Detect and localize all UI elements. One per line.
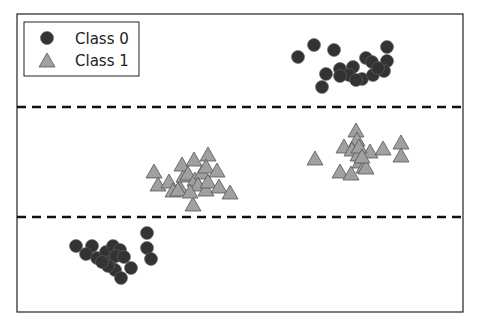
legend-label-class-1: Class 1 bbox=[75, 52, 129, 70]
class-0-point bbox=[381, 41, 394, 54]
class-0-point bbox=[372, 62, 385, 75]
class-0-point bbox=[334, 70, 347, 83]
scatter-chart: Class 0 Class 1 bbox=[0, 0, 479, 327]
class-0-point bbox=[118, 251, 131, 264]
class-0-point bbox=[308, 39, 321, 52]
class-0-point bbox=[141, 227, 154, 240]
class-0-point bbox=[320, 68, 333, 81]
legend-label-class-0: Class 0 bbox=[75, 30, 129, 48]
class-0-point bbox=[145, 253, 158, 266]
class-0-point bbox=[316, 81, 329, 94]
class-0-point bbox=[292, 51, 305, 64]
class-0-point bbox=[96, 256, 109, 269]
class-0-point bbox=[125, 262, 138, 275]
class-0-point bbox=[115, 272, 128, 285]
legend: Class 0 Class 1 bbox=[24, 22, 139, 76]
class-0-point bbox=[350, 74, 363, 87]
circle-marker-icon bbox=[41, 32, 54, 45]
class-0-point bbox=[328, 44, 341, 57]
